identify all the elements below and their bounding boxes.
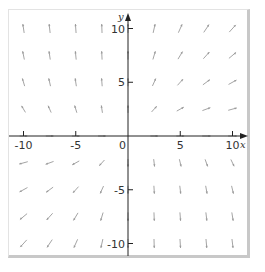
y-tick-label: -5: [114, 184, 125, 197]
arrowhead-icon: [153, 219, 155, 221]
arrowhead-icon: [101, 24, 103, 26]
y-axis-label: y: [117, 11, 124, 22]
arrowhead-icon: [179, 246, 181, 248]
vector-field-plot: -10-5510-10-5510 x y 0: [0, 0, 265, 272]
x-tick-label: 5: [177, 139, 184, 152]
x-tick-label: 10: [226, 139, 240, 152]
y-tick-label: 10: [111, 23, 125, 36]
arrowhead-icon: [101, 78, 103, 80]
y-axis-arrow-icon: [125, 13, 131, 21]
arrowhead-icon: [74, 24, 76, 26]
origin-label: 0: [119, 139, 126, 152]
x-axis-label: x: [240, 139, 246, 150]
axes: [9, 13, 248, 256]
arrowhead-icon: [153, 191, 155, 193]
arrowhead-icon: [205, 246, 207, 248]
x-tick-label: -5: [70, 139, 81, 152]
arrowhead-icon: [101, 51, 103, 53]
y-tick-label: -10: [107, 238, 125, 251]
y-tick-label: 5: [118, 76, 125, 89]
x-tick-label: -10: [15, 139, 33, 152]
arrowhead-icon: [153, 246, 155, 248]
arrowhead-icon: [179, 219, 181, 221]
